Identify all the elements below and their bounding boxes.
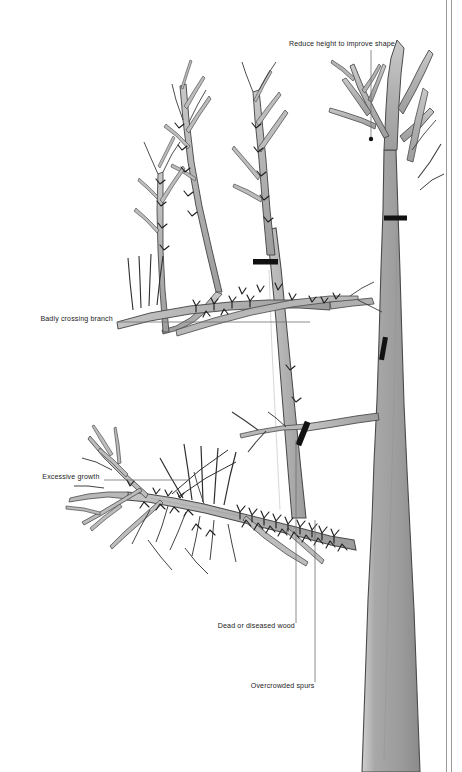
illustration-canvas: Reduce height to improve shape Badly cro… xyxy=(0,0,462,772)
label-badly-crossing-branch: Badly crossing branch xyxy=(41,315,113,323)
branch-center-up-3 xyxy=(254,70,272,102)
crossing-twigs-lower xyxy=(172,450,236,497)
cut-mark-central-leader xyxy=(253,259,278,265)
upright-far-left-b4 xyxy=(138,178,158,199)
branch-right-lower-fork xyxy=(232,412,258,430)
branch-lower-left-3 xyxy=(114,427,121,464)
label-excessive-growth: Excessive growth xyxy=(42,473,99,481)
label-dead-or-diseased-wood: Dead or diseased wood xyxy=(218,622,295,630)
leader-lines xyxy=(104,50,371,682)
upright-far-left-b1 xyxy=(160,166,185,203)
cut-mark-top-right-trunk xyxy=(384,216,407,221)
upright-left xyxy=(180,84,222,292)
upright-far-left-b2 xyxy=(158,136,175,168)
upright-far-left-b3 xyxy=(134,208,159,233)
water-shoots-upper xyxy=(128,254,163,310)
branch-right-thin-1 xyxy=(418,144,441,178)
branch-top-right xyxy=(398,50,433,114)
trunk xyxy=(362,150,420,772)
page-border-rules xyxy=(447,0,452,772)
label-overcrowded-spurs: Overcrowded spurs xyxy=(250,682,314,690)
branch-center-up-4 xyxy=(232,146,260,180)
branch-lower-scaffold xyxy=(127,492,356,550)
label-reduce-height: Reduce height to improve shape xyxy=(289,40,395,48)
branch-lower-left-8 xyxy=(66,506,100,515)
pruning-tree-artwork xyxy=(0,0,462,772)
branch-right-thin-2 xyxy=(420,174,444,190)
branch-right-lower xyxy=(306,413,379,431)
branch-lower-left-2 xyxy=(98,448,128,477)
branch-center-up-5 xyxy=(233,184,262,202)
water-shoots-lower xyxy=(160,444,236,505)
leader-endpoint-dot xyxy=(369,137,373,141)
